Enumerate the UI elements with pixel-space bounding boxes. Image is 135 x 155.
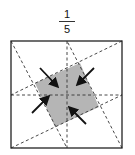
folding-diagram xyxy=(0,0,135,155)
